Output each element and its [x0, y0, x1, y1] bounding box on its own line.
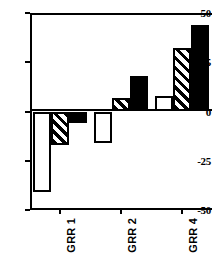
- bar: [155, 96, 173, 112]
- y-axis-tick-label: -25: [197, 155, 211, 167]
- bar: [112, 98, 130, 112]
- y-axis-tick-label: -50: [197, 204, 211, 216]
- y-axis-tick: [25, 111, 30, 113]
- plot-area: [30, 13, 212, 210]
- x-axis-category-label: GRR 2: [126, 218, 138, 253]
- x-axis-category-label: GRR 4: [187, 218, 199, 253]
- y-axis-tick: [25, 209, 30, 211]
- x-axis-tick: [120, 208, 122, 214]
- x-axis-category-label: GRR 1: [65, 218, 77, 253]
- y-axis-tick: [25, 61, 30, 63]
- x-axis-tick: [59, 208, 61, 214]
- bar: [94, 112, 112, 144]
- y-axis-tick-label: 50: [201, 7, 211, 19]
- y-axis-line: [30, 13, 32, 210]
- bar: [130, 76, 148, 111]
- y-axis-tick: [25, 12, 30, 14]
- bar: [173, 48, 191, 111]
- y-axis-tick-label: 25: [201, 56, 211, 68]
- y-axis-tick: [25, 160, 30, 162]
- bar: [51, 112, 69, 145]
- plot-frame-top: [30, 13, 212, 15]
- bar: [33, 112, 51, 193]
- x-axis-tick: [181, 208, 183, 214]
- y-axis-tick-label: 0: [206, 106, 211, 118]
- bar: [69, 112, 87, 124]
